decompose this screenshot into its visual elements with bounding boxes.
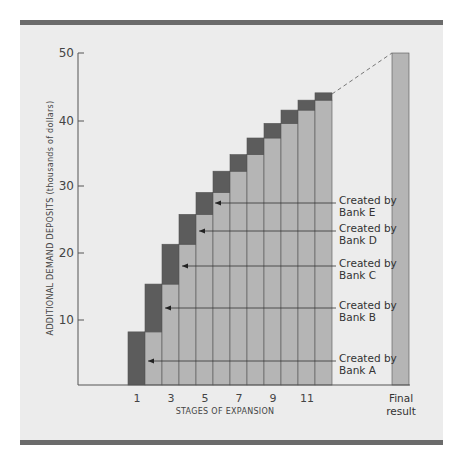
bar-new-deposits [230, 155, 247, 172]
y-ticks: 50 40 30 20 10 [59, 46, 84, 327]
final-label-line1: Final [389, 392, 413, 404]
bank-c-label-1: Created by [339, 257, 397, 269]
bank-d-label-2: Bank D [339, 234, 377, 246]
bar-previous-deposits [264, 138, 281, 385]
bar-new-deposits [213, 171, 230, 192]
bank-e-label-1: Created by [339, 194, 397, 206]
bank-b-label-1: Created by [339, 299, 397, 311]
bar-new-deposits [315, 93, 332, 100]
bank-e-label-2: Bank E [339, 206, 375, 218]
y-tick-50: 50 [59, 46, 74, 60]
bar-previous-deposits [196, 214, 213, 385]
y-tick-40: 40 [59, 114, 74, 128]
x-tick-5: 5 [202, 392, 209, 405]
bar-new-deposits [179, 214, 196, 244]
x-tick-9: 9 [270, 392, 277, 405]
bar-previous-deposits [315, 100, 332, 385]
bank-d-label-1: Created by [339, 222, 397, 234]
bar-new-deposits [128, 332, 145, 385]
bank-a-label-2: Bank A [339, 364, 377, 376]
bar-previous-deposits [213, 192, 230, 385]
bar-new-deposits [298, 100, 315, 110]
x-tick-11: 11 [300, 392, 314, 405]
deposit-expansion-chart: 50 40 30 20 10 ADDITIONAL DEMAND DEPOSIT… [0, 0, 453, 456]
bar-previous-deposits [162, 284, 179, 385]
bar-final-result [392, 53, 409, 385]
bar-new-deposits [247, 138, 264, 155]
bank-b-label-2: Bank B [339, 311, 376, 323]
y-axis-title: ADDITIONAL DEMAND DEPOSITS (thousands of… [46, 101, 55, 336]
final-label-line2: result [386, 405, 416, 417]
x-axis-title: STAGES OF EXPANSION [176, 407, 275, 416]
y-tick-20: 20 [59, 246, 74, 260]
bank-c-label-2: Bank C [339, 269, 376, 281]
y-tick-30: 30 [59, 179, 74, 193]
bar-new-deposits [281, 110, 298, 123]
x-tick-7: 7 [236, 392, 243, 405]
x-ticks: 1 3 5 7 9 11 [134, 392, 315, 405]
y-tick-10: 10 [59, 313, 74, 327]
x-tick-3: 3 [168, 392, 175, 405]
bar-previous-deposits [298, 110, 315, 385]
bar-previous-deposits [247, 155, 264, 385]
bar-previous-deposits [145, 332, 162, 385]
bar-new-deposits [264, 123, 281, 138]
dashed-connector [332, 53, 392, 94]
bar-new-deposits [196, 192, 213, 214]
bank-a-label-1: Created by [339, 352, 397, 364]
bar-new-deposits [145, 284, 162, 332]
x-tick-1: 1 [134, 392, 141, 405]
bar-previous-deposits [281, 123, 298, 385]
bar-new-deposits [162, 244, 179, 284]
bars-group [128, 53, 409, 385]
